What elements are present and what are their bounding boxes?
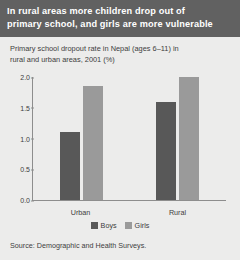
x-axis-label-urban: Urban: [58, 208, 104, 217]
headline-banner: In rural areas more children drop out of…: [0, 0, 240, 37]
legend-item-boys[interactable]: Boys: [91, 221, 117, 230]
y-axis-tick: 0.5: [20, 166, 30, 173]
bar-group-rural: [156, 77, 199, 200]
legend-label-girls: Girls: [135, 221, 150, 230]
bar-group-urban: [60, 77, 103, 200]
y-axis-tick: 0.0: [20, 197, 30, 204]
bar-rural-girls[interactable]: [179, 77, 199, 200]
bar-urban-girls[interactable]: [83, 86, 103, 200]
y-axis-tick: 2.0: [20, 74, 30, 81]
x-axis-labels: Urban Rural: [32, 208, 226, 217]
legend-swatch-boys-icon: [91, 222, 98, 229]
y-axis-tick: 1.0: [20, 135, 30, 142]
x-axis-label-rural: Rural: [155, 208, 201, 217]
legend-item-girls[interactable]: Girls: [125, 221, 150, 230]
legend-swatch-girls-icon: [125, 222, 132, 229]
bar-groups: [33, 77, 226, 200]
bar-chart: 0.0 0.5 1.0 1.5 2.0 Urban Rural: [6, 71, 232, 219]
headline-line-1: In rural areas more children drop out of: [7, 5, 233, 18]
legend-label-boys: Boys: [101, 221, 117, 230]
infographic-card: In rural areas more children drop out of…: [0, 0, 240, 260]
headline-line-2: primary school, and girls are more vulne…: [7, 18, 233, 31]
bar-urban-boys[interactable]: [60, 132, 80, 200]
plot-area: 0.0 0.5 1.0 1.5 2.0: [32, 77, 226, 201]
bar-rural-boys[interactable]: [156, 102, 176, 200]
chart-legend: Boys Girls: [0, 221, 240, 230]
chart-subtitle-line-2: rural and urban areas, 2001 (%): [10, 55, 230, 66]
chart-subtitle-line-1: Primary school dropout rate in Nepal (ag…: [10, 44, 230, 55]
y-axis-tick: 1.5: [20, 104, 30, 111]
source-note: Source: Demographic and Health Surveys.: [0, 241, 240, 260]
chart-subtitle: Primary school dropout rate in Nepal (ag…: [0, 37, 240, 67]
